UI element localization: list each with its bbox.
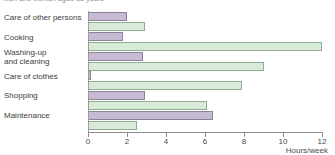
bar-series-b-shopping <box>88 101 207 110</box>
x-axis-title: Hours/week <box>286 146 328 155</box>
category-label-care-of-clothes: Care of clothes <box>4 73 88 82</box>
bar-series-a-maintenance <box>88 111 213 120</box>
x-axis-tick-label: 10 <box>279 137 288 146</box>
category-label-care-of-other-persons: Care of other persons <box>4 14 88 23</box>
bar-series-a-shopping <box>88 91 145 100</box>
bar-series-b-washing-up-and-cleaning <box>88 62 264 71</box>
category-label-cooking: Cooking <box>4 34 88 43</box>
x-axis-tick-label: 2 <box>125 137 129 146</box>
x-axis-tick-label: 6 <box>203 137 207 146</box>
category-label-shopping: Shopping <box>4 92 88 101</box>
bar-chart: Men and women aged 16 years Care of othe… <box>0 0 335 155</box>
bar-series-b-maintenance <box>88 121 137 130</box>
category-label-washing-up-and-cleaning: Washing-up and cleaning <box>4 49 88 66</box>
bar-series-a-washing-up-and-cleaning <box>88 52 143 61</box>
bar-series-b-care-of-clothes <box>88 81 242 90</box>
bar-series-a-cooking <box>88 32 123 41</box>
category-label-maintenance: Maintenance <box>4 112 88 121</box>
x-axis-tick-label: 4 <box>164 137 168 146</box>
plot-area <box>88 11 322 131</box>
bar-series-a-care-of-other-persons <box>88 12 127 21</box>
bar-series-b-cooking <box>88 42 322 51</box>
x-axis-tick-label: 0 <box>86 137 90 146</box>
x-axis-tick-label: 12 <box>318 137 327 146</box>
y-axis-line <box>88 11 89 133</box>
chart-title: Men and women aged 16 years <box>3 0 104 2</box>
x-axis-tick-label: 8 <box>242 137 246 146</box>
bar-series-b-care-of-other-persons <box>88 22 145 31</box>
